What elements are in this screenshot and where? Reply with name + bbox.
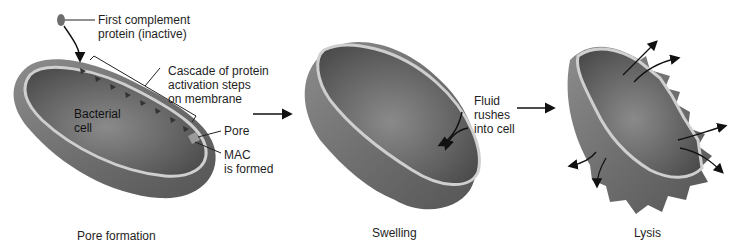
label-pore: Pore [224,124,249,138]
label-cascade: Cascade of protein activation steps on m… [168,64,269,106]
bacterial-cell-lysis [568,47,712,214]
caption-pore-formation: Pore formation [77,229,156,243]
label-bacterial-cell: Bacterial cell [74,107,121,135]
caption-swelling: Swelling [372,226,417,240]
label-mac-formed: MAC is formed [224,148,273,176]
complement-protein-icon [57,14,65,26]
mac-lysis-diagram: First complement protein (inactive) Casc… [0,0,741,245]
label-fluid-rushes: Fluid rushes into cell [474,94,515,136]
caption-lysis: Lysis [634,226,661,240]
label-first-complement-protein: First complement protein (inactive) [98,13,190,41]
bacterial-cell-swelling [305,42,480,209]
